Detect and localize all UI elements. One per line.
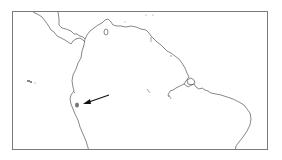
coastal-island bbox=[170, 55, 171, 56]
river-mark bbox=[169, 95, 171, 99]
map-svg bbox=[13, 12, 268, 150]
lake-maracaibo bbox=[104, 29, 108, 35]
arrow-icon bbox=[83, 95, 109, 104]
map-frame bbox=[12, 11, 268, 150]
atlantic-coast bbox=[211, 93, 251, 150]
marajo-island bbox=[187, 78, 195, 85]
amazon-delta bbox=[168, 77, 211, 97]
central-america-caribbean-coast bbox=[58, 12, 85, 39]
caribbean-coast bbox=[85, 19, 189, 77]
caribbean-island bbox=[152, 14, 153, 15]
river-mark bbox=[147, 89, 150, 93]
caribbean-island bbox=[145, 14, 146, 15]
pacific-coast bbox=[70, 39, 89, 150]
caribbean-island bbox=[125, 22, 126, 23]
galapagos-islands bbox=[27, 80, 36, 84]
location-marker bbox=[75, 102, 79, 107]
